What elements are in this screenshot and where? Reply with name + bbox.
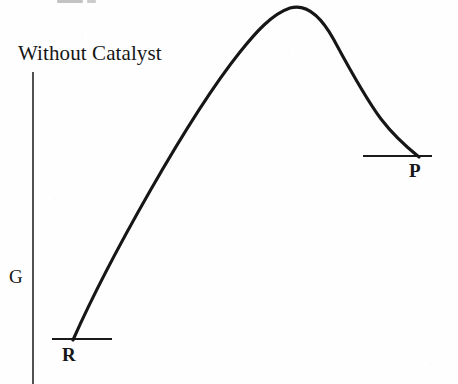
product-level-label: P bbox=[409, 161, 421, 180]
reactant-level-label: R bbox=[62, 345, 76, 364]
energy-profile-diagram: Without Catalyst G R P bbox=[0, 0, 458, 384]
y-axis-label: G bbox=[9, 267, 23, 286]
chart-title: Without Catalyst bbox=[18, 43, 162, 64]
